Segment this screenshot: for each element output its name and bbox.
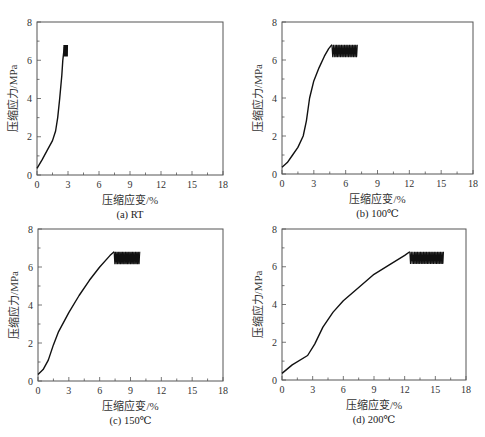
x-tick-label: 15 — [187, 385, 197, 396]
y-axis-title: 压缩应力/MPa — [7, 271, 20, 339]
oscillation-fill — [335, 45, 357, 56]
y-tick-label: 4 — [27, 93, 32, 104]
plot-frame — [38, 229, 223, 381]
x-axis-title: 压缩应变/% — [102, 399, 158, 412]
x-tick-label: 12 — [156, 385, 166, 396]
x-tick-label: 9 — [372, 384, 377, 395]
panel-caption: (c) 150℃ — [110, 415, 152, 427]
oscillation-fill — [414, 252, 444, 263]
x-tick-label: 3 — [311, 178, 316, 189]
x-tick-label: 18 — [461, 384, 471, 395]
x-axis-title: 压缩应变/% — [346, 398, 402, 411]
y-tick-label: 8 — [27, 17, 32, 28]
chart-panel-c: 036912151802468压缩应变/%压缩应力/MPa(c) 150℃ — [7, 224, 228, 428]
y-tick-label: 6 — [272, 261, 277, 272]
y-tick-label: 0 — [272, 169, 277, 180]
y-tick-label: 8 — [272, 224, 277, 235]
y-tick-label: 4 — [272, 93, 277, 104]
stress-strain-curve — [282, 45, 332, 168]
panel-caption: (b) 100℃ — [356, 208, 399, 220]
x-tick-label: 15 — [430, 384, 440, 395]
x-tick-label: 12 — [404, 178, 414, 189]
x-tick-label: 3 — [66, 385, 71, 396]
x-tick-label: 15 — [436, 178, 446, 189]
y-axis-title: 压缩应力/MPa — [251, 64, 264, 132]
y-tick-label: 2 — [27, 131, 32, 142]
chart-panel-d: 036912151802468压缩应变/%压缩应力/MPa(d) 200℃ — [251, 224, 471, 427]
x-tick-label: 18 — [218, 179, 228, 190]
x-tick-label: 3 — [66, 179, 71, 190]
x-tick-label: 9 — [128, 385, 133, 396]
figure: 036912151802468压缩应变/%压缩应力/MPa(a) RT03691… — [0, 0, 485, 437]
y-tick-label: 4 — [272, 299, 277, 310]
figure-canvas: 036912151802468压缩应变/%压缩应力/MPa(a) RT03691… — [0, 0, 485, 437]
x-tick-label: 6 — [341, 384, 346, 395]
oscillation-fill — [64, 46, 67, 57]
chart-panel-b: 036912151802468压缩应变/%压缩应力/MPa(b) 100℃ — [251, 17, 478, 221]
y-axis-title: 压缩应力/MPa — [6, 64, 19, 132]
x-axis-title: 压缩应变/% — [349, 192, 405, 205]
oscillation-fill — [117, 252, 140, 263]
x-tick-label: 0 — [280, 384, 285, 395]
y-tick-label: 8 — [28, 224, 33, 235]
chart-panel-a: 036912151802468压缩应变/%压缩应力/MPa(a) RT — [6, 17, 228, 222]
x-tick-label: 9 — [128, 179, 133, 190]
y-tick-label: 6 — [272, 55, 277, 66]
plot-frame — [282, 22, 473, 174]
stress-strain-curve — [282, 252, 410, 374]
panel-caption: (d) 200℃ — [353, 414, 396, 426]
y-tick-label: 0 — [272, 375, 277, 386]
y-tick-label: 6 — [27, 55, 32, 66]
x-tick-label: 18 — [218, 385, 228, 396]
y-tick-label: 4 — [28, 300, 33, 311]
x-tick-label: 6 — [343, 178, 348, 189]
x-tick-label: 0 — [36, 385, 41, 396]
x-tick-label: 0 — [280, 178, 285, 189]
panel-caption: (a) RT — [116, 209, 144, 221]
x-tick-label: 6 — [97, 385, 102, 396]
x-tick-label: 6 — [97, 179, 102, 190]
plot-frame — [37, 22, 223, 175]
x-tick-label: 12 — [400, 384, 410, 395]
y-tick-label: 0 — [28, 376, 33, 387]
x-axis-title: 压缩应变/% — [102, 193, 158, 206]
y-tick-label: 6 — [28, 262, 33, 273]
y-tick-label: 2 — [272, 131, 277, 142]
y-tick-label: 0 — [27, 170, 32, 181]
x-tick-label: 3 — [310, 384, 315, 395]
y-tick-label: 8 — [272, 17, 277, 28]
x-tick-label: 12 — [156, 179, 166, 190]
y-tick-label: 2 — [28, 338, 33, 349]
plot-frame — [282, 229, 466, 380]
stress-strain-curve — [38, 252, 114, 375]
x-tick-label: 0 — [35, 179, 40, 190]
x-tick-label: 9 — [375, 178, 380, 189]
stress-strain-curve — [37, 47, 64, 168]
x-tick-label: 15 — [187, 179, 197, 190]
x-tick-label: 18 — [468, 178, 478, 189]
y-axis-title: 压缩应力/MPa — [251, 270, 264, 338]
y-tick-label: 2 — [272, 337, 277, 348]
